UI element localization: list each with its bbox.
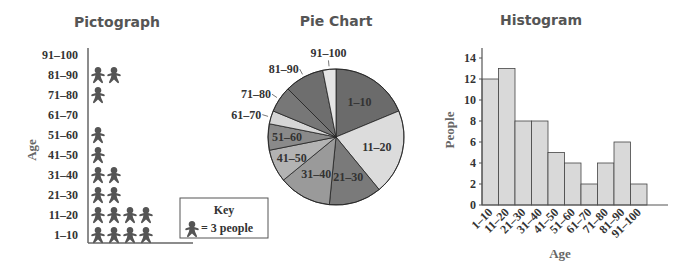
histogram-bar — [482, 79, 499, 205]
histogram-bar — [532, 121, 549, 205]
histogram-ytick-label: 10 — [464, 93, 476, 107]
histogram-bar — [548, 153, 565, 206]
histogram-ytick-label: 4 — [470, 156, 476, 170]
histogram-bar — [598, 163, 615, 205]
histogram-bar — [631, 184, 648, 205]
histogram-ytick-label: 0 — [470, 198, 476, 212]
histogram-bar — [499, 69, 516, 206]
histogram-bar — [614, 142, 631, 205]
histogram-xlabel: Age — [549, 246, 571, 261]
histogram-ylabel: People — [442, 111, 457, 148]
histogram-chart: 024681012141–1011–2021–3031–4041–5051–60… — [0, 0, 692, 274]
histogram-ytick-label: 14 — [464, 51, 476, 65]
histogram-ytick-label: 2 — [470, 177, 476, 191]
histogram-bar — [515, 121, 532, 205]
histogram-ytick-label: 12 — [464, 72, 476, 86]
histogram-ytick-label: 8 — [470, 114, 476, 128]
histogram-ytick-label: 6 — [470, 135, 476, 149]
histogram-bar — [581, 184, 598, 205]
histogram-bar — [565, 163, 582, 205]
